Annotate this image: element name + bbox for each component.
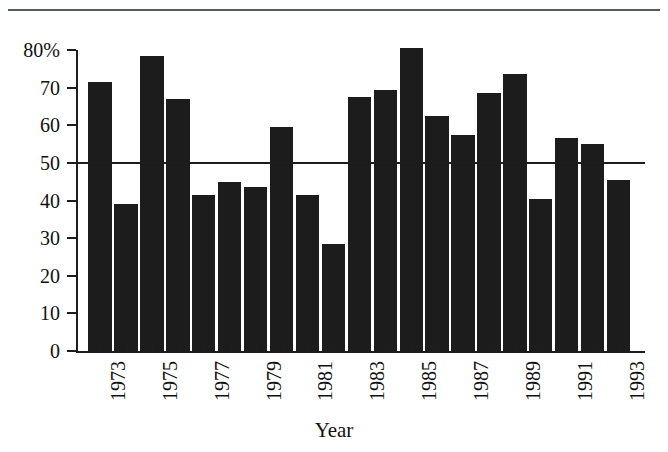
x-axis-tick-label: 1977 [212,361,232,401]
plot-area: 80%706050403020100 [76,50,645,351]
y-axis-tick: 30 [67,237,76,239]
bar [555,138,578,351]
bar [192,195,215,351]
y-axis-tick-label: 0 [50,340,60,362]
x-axis-tick [230,343,232,351]
x-axis-tick [385,343,387,351]
x-axis-tick [333,343,335,351]
x-axis-line [76,351,645,353]
bar [270,127,293,351]
bar [425,116,448,351]
x-axis-tick-label: 1987 [471,361,491,401]
reference-line-50 [76,162,645,164]
bar [88,82,111,351]
bar [166,99,189,351]
x-axis-tick [152,343,154,351]
bar [400,48,423,351]
x-axis-tick-label: 1983 [367,361,387,401]
x-axis-tick [256,343,258,351]
x-axis-title: Year [0,418,668,443]
y-axis-tick-label: 70 [40,77,60,99]
y-axis-tick-label: 10 [40,302,60,324]
y-axis-tick-label: 40 [40,190,60,212]
x-axis-tick [307,343,309,351]
bar [322,244,345,351]
y-axis-tick: 20 [67,275,76,277]
x-axis-tick-label: 1989 [523,361,543,401]
x-axis-tick [541,343,543,351]
x-axis-tick [567,343,569,351]
x-axis-tick-label: 1991 [575,361,595,401]
bar [348,97,371,351]
y-axis-tick-label: 50 [40,152,60,174]
x-axis-tick [619,343,621,351]
bar [374,90,397,351]
x-axis-tick [437,343,439,351]
x-axis-tick [282,343,284,351]
bar [581,144,604,351]
y-axis-tick: 40 [67,200,76,202]
x-axis-tick-label: 1981 [315,361,335,401]
x-axis-tick-label: 1993 [627,361,647,401]
y-axis-tick-label: 20 [40,265,60,287]
bar [140,56,163,351]
x-axis-tick-label: 1975 [160,361,180,401]
y-axis-tick: 70 [67,87,76,89]
bar [296,195,319,351]
x-axis-tick [126,343,128,351]
y-axis-tick: 50 [67,162,76,164]
bar [607,180,630,351]
x-axis-tick-label: 1973 [108,361,128,401]
bar-chart: 80%706050403020100 Year 1973197519771979… [0,0,668,452]
y-axis-tick: 80% [67,49,76,51]
x-axis-tick [463,343,465,351]
y-axis-tick-label: 80% [23,39,60,61]
x-axis-tick [593,343,595,351]
x-axis-tick [489,343,491,351]
bar [503,74,526,351]
y-axis-tick: 0 [67,350,76,352]
y-axis-tick: 60 [67,124,76,126]
x-axis-tick-label: 1985 [419,361,439,401]
bar [477,93,500,351]
bar [529,199,552,351]
y-axis-tick-label: 30 [40,227,60,249]
x-axis-tick [515,343,517,351]
y-axis-tick-label: 60 [40,114,60,136]
x-axis-tick [100,343,102,351]
x-axis-tick [204,343,206,351]
bar [451,135,474,351]
bar [218,182,241,351]
bar [244,187,267,351]
x-axis-tick [178,343,180,351]
x-axis-tick [359,343,361,351]
x-axis-tick [411,343,413,351]
bar [114,204,137,351]
x-axis-tick-label: 1979 [264,361,284,401]
y-axis-tick: 10 [67,312,76,314]
